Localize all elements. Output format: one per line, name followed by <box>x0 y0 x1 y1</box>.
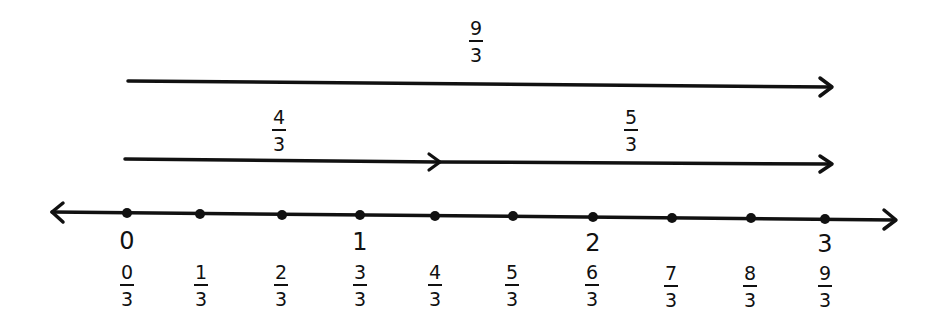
tick-label-8-thirds: 83 <box>735 263 765 310</box>
denominator: 3 <box>656 290 686 310</box>
tick-label-5-thirds: 53 <box>497 262 527 309</box>
numerator: 3 <box>345 262 375 282</box>
denominator: 3 <box>186 289 216 309</box>
denominator: 3 <box>345 289 375 309</box>
fraction-bar <box>624 129 638 131</box>
denominator: 3 <box>420 289 450 309</box>
fraction-bar <box>664 285 678 287</box>
jump-arrow-four-thirds <box>125 154 440 170</box>
whole-label-0: 0 <box>112 228 142 254</box>
numerator: 5 <box>497 262 527 282</box>
numerator: 4 <box>420 262 450 282</box>
denominator: 3 <box>735 290 765 310</box>
whole-label-1: 1 <box>345 229 375 255</box>
denominator: 3 <box>616 134 646 154</box>
denominator: 3 <box>264 134 294 154</box>
fraction-bar <box>120 284 134 286</box>
number-line-axis <box>52 203 896 229</box>
fraction-bar <box>272 129 286 131</box>
fraction-bar <box>469 40 483 42</box>
arrow-label-five-thirds: 5 3 <box>616 107 646 154</box>
whole-label-2: 2 <box>578 230 608 256</box>
fraction-bar <box>194 284 208 286</box>
denominator: 3 <box>112 289 142 309</box>
denominator: 3 <box>810 290 840 310</box>
whole-label-3: 3 <box>810 231 840 257</box>
fraction-bar <box>585 284 599 286</box>
denominator: 3 <box>577 289 607 309</box>
tick-label-0-thirds: 03 <box>112 262 142 309</box>
numerator: 1 <box>186 262 216 282</box>
numerator: 0 <box>112 262 142 282</box>
numerator: 8 <box>735 263 765 283</box>
jump-arrow-five-thirds <box>440 156 832 172</box>
tick-label-4-thirds: 43 <box>420 262 450 309</box>
numerator: 2 <box>266 262 296 282</box>
fraction-bar <box>818 285 832 287</box>
tick-label-6-thirds: 63 <box>577 262 607 309</box>
arrow-label-nine-thirds: 9 3 <box>461 18 491 65</box>
denominator: 3 <box>266 289 296 309</box>
denominator: 3 <box>461 45 491 65</box>
tick-label-2-thirds: 23 <box>266 262 296 309</box>
tick-label-3-thirds: 33 <box>345 262 375 309</box>
fraction-bar <box>505 284 519 286</box>
numerator: 5 <box>616 107 646 127</box>
tick-label-9-thirds: 93 <box>810 263 840 310</box>
fraction-bar <box>353 284 367 286</box>
fraction-bar <box>743 285 757 287</box>
tick-label-1-thirds: 13 <box>186 262 216 309</box>
numerator: 9 <box>461 18 491 38</box>
fraction-bar <box>428 284 442 286</box>
fraction-bar <box>274 284 288 286</box>
arrow-label-four-thirds: 4 3 <box>264 107 294 154</box>
numerator: 9 <box>810 263 840 283</box>
jump-arrow-nine-thirds <box>128 78 832 96</box>
numerator: 4 <box>264 107 294 127</box>
numerator: 6 <box>577 262 607 282</box>
denominator: 3 <box>497 289 527 309</box>
numerator: 7 <box>656 263 686 283</box>
tick-label-7-thirds: 73 <box>656 263 686 310</box>
